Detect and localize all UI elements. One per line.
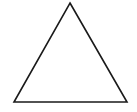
triangle-shape <box>14 3 127 102</box>
diagram-canvas <box>0 0 137 112</box>
triangle-diagram <box>0 0 137 112</box>
